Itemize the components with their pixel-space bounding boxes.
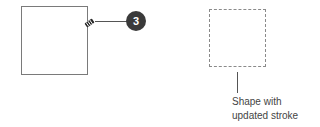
original-shape (21, 6, 88, 75)
step-badge: 3 (126, 11, 146, 31)
caption: Shape with updated stroke (232, 95, 298, 123)
updated-stroke-shape (209, 9, 266, 67)
caption-line-2: updated stroke (232, 109, 298, 123)
paintbrush-icon (84, 14, 95, 24)
callout-line (237, 72, 238, 93)
leader-line (95, 21, 127, 22)
caption-line-1: Shape with (232, 95, 298, 109)
